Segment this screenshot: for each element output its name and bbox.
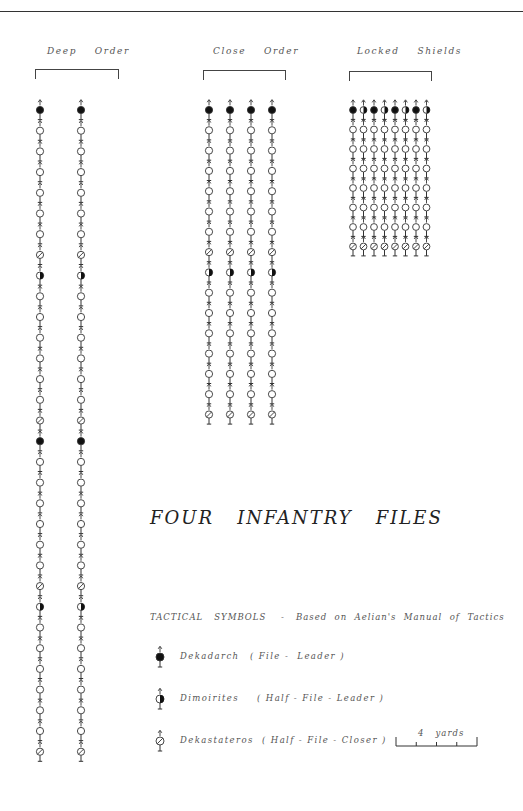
soldier-hollow-icon (77, 555, 84, 575)
soldier-filled-icon (247, 100, 254, 120)
soldier-hatched-icon (381, 236, 388, 256)
soldier-hatched-icon (268, 242, 275, 262)
soldier-hollow-icon (226, 201, 233, 221)
soldier-hatched-icon (36, 410, 43, 430)
soldier-hatched-icon (413, 236, 420, 256)
formations (36, 100, 430, 762)
soldier-hollow-icon (247, 282, 254, 302)
soldier-hollow-icon (247, 343, 254, 363)
soldier-hollow-icon (36, 452, 43, 472)
soldier-hollow-icon (247, 120, 254, 140)
formation-locked-shields (350, 100, 430, 256)
soldier-hollow-icon (77, 348, 84, 368)
soldier-hollow-icon (205, 201, 212, 221)
soldier-hollow-icon (77, 162, 84, 182)
soldier-hollow-icon (36, 141, 43, 161)
soldier-hollow-icon (226, 364, 233, 384)
soldier-hollow-icon (423, 178, 430, 198)
soldier-filled-icon (36, 100, 43, 120)
soldier-hollow-icon (268, 282, 275, 302)
soldier-hollow-icon (36, 162, 43, 182)
soldier-hollow-icon (423, 217, 430, 237)
soldier-filled-icon (36, 431, 43, 451)
soldier-hollow-icon (36, 700, 43, 720)
soldier-hollow-icon (402, 158, 409, 178)
soldier-hollow-icon (360, 197, 367, 217)
soldier-hollow-icon (371, 139, 378, 159)
soldier-hollow-icon (268, 343, 275, 363)
soldier-hollow-icon (402, 119, 409, 139)
soldier-hollow-icon (77, 638, 84, 658)
soldier-filled-icon (77, 431, 84, 451)
soldier-hollow-icon (360, 178, 367, 198)
legend-heading: TACTICAL SYMBOLS - Based on Aelian's Man… (150, 612, 505, 622)
soldier-hollow-icon (268, 323, 275, 343)
scale-bar (396, 737, 477, 746)
soldier-half-filled-icon (226, 262, 233, 282)
soldier-hatched-icon (77, 576, 84, 596)
soldier-hollow-icon (36, 472, 43, 492)
formation-diagram (0, 0, 523, 811)
soldier-hollow-icon (77, 203, 84, 223)
soldier-hollow-icon (247, 161, 254, 181)
soldier-hollow-icon (350, 139, 357, 159)
soldier-filled-icon (268, 100, 275, 120)
soldier-hollow-icon (205, 120, 212, 140)
soldier-hollow-icon (77, 472, 84, 492)
soldier-filled-icon (156, 646, 164, 667)
soldier-hatched-icon (423, 236, 430, 256)
soldier-hollow-icon (36, 286, 43, 306)
soldier-hollow-icon (413, 197, 420, 217)
soldier-filled-icon (392, 100, 399, 120)
soldier-hollow-icon (36, 182, 43, 202)
soldier-hatched-icon (268, 404, 275, 424)
soldier-hollow-icon (77, 182, 84, 202)
soldier-hatched-icon (205, 404, 212, 424)
soldier-half-filled-icon (205, 262, 212, 282)
soldier-hollow-icon (36, 348, 43, 368)
soldier-hollow-icon (77, 307, 84, 327)
soldier-hollow-icon (360, 158, 367, 178)
soldier-hollow-icon (392, 217, 399, 237)
soldier-hollow-icon (205, 140, 212, 160)
soldier-hollow-icon (268, 120, 275, 140)
soldier-hollow-icon (371, 119, 378, 139)
soldier-hollow-icon (36, 534, 43, 554)
soldier-hollow-icon (36, 679, 43, 699)
soldier-hollow-icon (381, 217, 388, 237)
soldier-hollow-icon (413, 139, 420, 159)
soldier-half-filled-icon (36, 265, 43, 285)
soldier-hollow-icon (247, 181, 254, 201)
soldier-hollow-icon (205, 323, 212, 343)
soldier-hollow-icon (268, 221, 275, 241)
soldier-hollow-icon (402, 178, 409, 198)
soldier-hollow-icon (205, 364, 212, 384)
formation-close-order (205, 100, 275, 425)
soldier-hollow-icon (371, 178, 378, 198)
soldier-filled-icon (77, 100, 84, 120)
soldier-hollow-icon (226, 140, 233, 160)
soldier-hatched-icon (226, 404, 233, 424)
soldier-half-filled-icon (402, 100, 409, 120)
soldier-hollow-icon (268, 181, 275, 201)
soldier-hollow-icon (392, 158, 399, 178)
soldier-hollow-icon (77, 700, 84, 720)
soldier-hatched-icon (350, 236, 357, 256)
soldier-hollow-icon (360, 119, 367, 139)
soldier-hollow-icon (381, 139, 388, 159)
soldier-half-filled-icon (360, 100, 367, 120)
soldier-hollow-icon (350, 119, 357, 139)
soldier-half-filled-icon (77, 596, 84, 616)
soldier-half-filled-icon (77, 265, 84, 285)
soldier-hollow-icon (226, 282, 233, 302)
soldier-hollow-icon (360, 217, 367, 237)
soldier-hollow-icon (77, 369, 84, 389)
soldier-half-filled-icon (36, 596, 43, 616)
soldier-hollow-icon (36, 224, 43, 244)
legend-name: Dekadarch (180, 651, 239, 661)
soldier-hollow-icon (77, 659, 84, 679)
soldier-hollow-icon (371, 197, 378, 217)
soldier-hollow-icon (226, 384, 233, 404)
legend-desc: ( File - Leader ) (250, 651, 345, 661)
legend-name: Dimoirites (180, 693, 239, 703)
